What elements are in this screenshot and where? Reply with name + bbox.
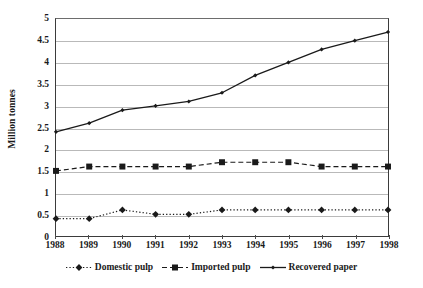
- data-point-marker: [86, 215, 93, 222]
- data-point-marker: [320, 47, 324, 51]
- data-point-marker: [154, 104, 158, 108]
- data-point-marker: [285, 207, 292, 214]
- y-axis-tick-label: 1.5: [37, 166, 49, 176]
- series-line: [56, 32, 388, 132]
- data-point-marker: [386, 30, 390, 34]
- x-axis-tick-label: 1994: [246, 240, 265, 250]
- x-axis-tick-mark: [189, 235, 190, 239]
- data-point-marker: [186, 164, 192, 170]
- x-axis-tick-labels: 1988198919901991199219931994199519961997…: [55, 240, 389, 256]
- y-axis-tick-label: 3: [44, 101, 49, 111]
- data-point-marker: [54, 130, 58, 134]
- x-axis-tick-mark: [389, 235, 390, 239]
- y-axis-tick-label: 2: [44, 144, 49, 154]
- y-axis-tick-label: 2.5: [37, 123, 49, 133]
- y-axis-tick-label: 1: [44, 188, 49, 198]
- legend-item-recovered-paper[interactable]: Recovered paper: [260, 262, 358, 272]
- x-axis-tick-label: 1992: [179, 240, 198, 250]
- x-axis-tick-label: 1988: [46, 240, 65, 250]
- series-domestic-pulp: [53, 207, 392, 222]
- y-axis-tick-label: 5: [44, 13, 49, 23]
- x-axis-tick-label: 1995: [279, 240, 298, 250]
- data-point-marker: [86, 164, 92, 170]
- plot-area: [55, 18, 389, 237]
- x-axis-tick-label: 1990: [112, 240, 131, 250]
- data-point-marker: [152, 211, 159, 218]
- legend-label: Imported pulp: [191, 262, 250, 272]
- data-point-marker: [53, 168, 59, 174]
- data-point-marker: [185, 211, 192, 218]
- legend-label: Domestic pulp: [95, 262, 153, 272]
- x-axis-tick-label: 1993: [213, 240, 232, 250]
- legend-swatch-diamond-icon: [66, 263, 92, 272]
- data-point-marker: [219, 207, 226, 214]
- x-axis-tick-label: 1996: [313, 240, 332, 250]
- data-point-marker: [187, 99, 191, 103]
- x-axis-tick-mark: [155, 235, 156, 239]
- chart-legend: Domestic pulpImported pulpRecovered pape…: [0, 262, 423, 272]
- data-point-marker: [318, 207, 325, 214]
- data-point-marker: [351, 207, 358, 214]
- series-layer: [56, 19, 388, 236]
- x-axis-tick-mark: [356, 235, 357, 239]
- y-axis-tick-label: 3.5: [37, 79, 49, 89]
- data-point-marker: [385, 164, 391, 170]
- series-recovered-paper: [54, 30, 390, 134]
- x-axis-tick-label: 1998: [380, 240, 399, 250]
- data-point-marker: [87, 121, 91, 125]
- y-axis-tick-label: 4: [44, 57, 49, 67]
- data-point-marker: [119, 164, 125, 170]
- data-point-marker: [119, 207, 126, 214]
- y-axis-tick-label: 4.5: [37, 35, 49, 45]
- x-axis-tick-mark: [122, 235, 123, 239]
- legend-swatch-diamond-small-icon: [260, 263, 286, 272]
- legend-item-imported-pulp[interactable]: Imported pulp: [162, 262, 250, 272]
- data-point-marker: [252, 207, 259, 214]
- y-axis-title: Million tonnes: [0, 0, 24, 237]
- data-point-marker: [252, 159, 258, 165]
- data-point-marker: [219, 159, 225, 165]
- series-imported-pulp: [53, 159, 391, 174]
- x-axis-tick-label: 1989: [79, 240, 98, 250]
- x-axis-tick-mark: [289, 235, 290, 239]
- y-axis-title-label: Million tonnes: [7, 89, 17, 149]
- x-axis-tick-mark: [255, 235, 256, 239]
- data-point-marker: [353, 39, 357, 43]
- data-point-marker: [120, 108, 124, 112]
- data-point-marker: [153, 164, 159, 170]
- y-axis-tick-labels: 00.511.522.533.544.55: [24, 18, 53, 237]
- data-point-marker: [53, 215, 60, 222]
- y-axis-tick-label: 0.5: [37, 210, 49, 220]
- x-axis-tick-label: 1997: [346, 240, 365, 250]
- x-axis-tick-mark: [55, 235, 56, 239]
- x-axis-tick-mark: [322, 235, 323, 239]
- line-chart: Million tonnes 00.511.522.533.544.55 198…: [0, 0, 423, 288]
- x-axis-tick-mark: [88, 235, 89, 239]
- data-point-marker: [319, 164, 325, 170]
- data-point-marker: [385, 207, 392, 214]
- data-point-marker: [352, 164, 358, 170]
- x-axis-tick-mark: [222, 235, 223, 239]
- legend-item-domestic-pulp[interactable]: Domestic pulp: [66, 262, 153, 272]
- data-point-marker: [285, 159, 291, 165]
- legend-swatch-square-icon: [162, 263, 188, 272]
- data-point-marker: [286, 60, 290, 64]
- legend-label: Recovered paper: [289, 262, 358, 272]
- x-axis-tick-label: 1991: [146, 240, 165, 250]
